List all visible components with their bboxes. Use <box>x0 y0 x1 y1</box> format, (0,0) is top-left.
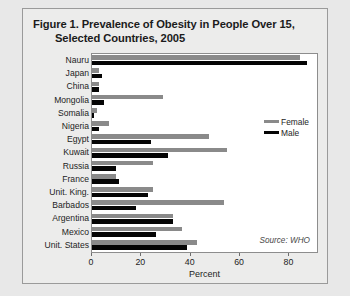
x-tick-label: 60 <box>234 257 244 267</box>
bar-female <box>92 214 173 219</box>
bar-female <box>92 187 153 192</box>
category-label: Russia <box>63 160 89 173</box>
x-tick <box>140 253 141 256</box>
bar-female <box>92 55 300 60</box>
bar-female <box>92 161 153 166</box>
x-tick-label: 40 <box>185 257 195 267</box>
bar-row: Argentina <box>92 212 317 225</box>
bar-male <box>92 87 99 92</box>
figure-title: Figure 1. Prevalence of Obesity in Peopl… <box>33 18 317 45</box>
legend-label: Female <box>281 117 309 127</box>
bar-row: Mongolia <box>92 94 317 107</box>
category-label: Unit. States <box>45 239 89 252</box>
category-label: Unit. King. <box>49 186 89 199</box>
x-axis-label: Percent <box>91 269 318 279</box>
category-label: Mexico <box>62 226 89 239</box>
figure-title-line-1: Figure 1. Prevalence of Obesity in Peopl… <box>33 18 295 30</box>
bar-male <box>92 245 187 250</box>
chart-legend: FemaleMale <box>264 116 309 138</box>
bar-male <box>92 206 136 211</box>
bar-female <box>92 108 97 113</box>
category-label: Argentina <box>52 212 89 225</box>
plot-area: NauruJapanChinaMongoliaSomaliaNigeriaEgy… <box>91 53 318 253</box>
bar-male <box>92 166 116 171</box>
bar-male <box>92 113 94 118</box>
bar-male <box>92 193 148 198</box>
figure-title-line-2: Selected Countries, 2005 <box>33 32 317 46</box>
bar-row: Nauru <box>92 54 317 67</box>
bar-female <box>92 148 227 153</box>
bar-female <box>92 134 209 139</box>
x-tick <box>91 253 92 256</box>
legend-item-male: Male <box>264 127 309 138</box>
bar-female <box>92 227 182 232</box>
legend-label: Male <box>281 128 299 138</box>
bar-row: Kuwait <box>92 146 317 159</box>
bar-female <box>92 82 99 87</box>
category-label: Nauru <box>66 54 89 67</box>
category-label: Kuwait <box>63 146 89 159</box>
bar-row: Japan <box>92 67 317 80</box>
legend-swatch-icon <box>264 120 279 123</box>
bar-male <box>92 127 99 132</box>
legend-swatch-icon <box>264 131 279 134</box>
category-label: Barbados <box>52 199 89 212</box>
category-label: Somalia <box>58 107 89 120</box>
x-axis: 020406080 Percent <box>91 253 318 287</box>
legend-item-female: Female <box>264 116 309 127</box>
source-note: Source: WHO <box>259 236 310 245</box>
bar-male <box>92 232 156 237</box>
x-tick <box>239 253 240 256</box>
bar-male <box>92 179 119 184</box>
bar-female <box>92 68 99 73</box>
bar-male <box>92 153 168 158</box>
bar-female <box>92 240 197 245</box>
category-label: Egypt <box>67 133 89 146</box>
x-tick-label: 20 <box>135 257 145 267</box>
bar-female <box>92 200 224 205</box>
bar-row: Barbados <box>92 199 317 212</box>
x-tick <box>190 253 191 256</box>
bar-row: China <box>92 80 317 93</box>
bar-row: Unit. King. <box>92 186 317 199</box>
category-label: France <box>62 173 89 186</box>
bar-female <box>92 174 116 179</box>
bar-row: Russia <box>92 160 317 173</box>
bar-rows: NauruJapanChinaMongoliaSomaliaNigeriaEgy… <box>92 54 317 252</box>
x-tick-label: 0 <box>89 257 94 267</box>
chart-container: NauruJapanChinaMongoliaSomaliaNigeriaEgy… <box>33 53 318 275</box>
figure-panel: Figure 1. Prevalence of Obesity in Peopl… <box>22 8 328 284</box>
bar-male <box>92 140 151 145</box>
bar-male <box>92 219 173 224</box>
category-label: China <box>67 80 89 93</box>
bar-male <box>92 100 104 105</box>
category-label: Mongolia <box>54 94 89 107</box>
x-tick <box>288 253 289 256</box>
bar-male <box>92 74 102 79</box>
category-label: Japan <box>66 67 89 80</box>
bar-row: France <box>92 173 317 186</box>
bar-female <box>92 95 163 100</box>
category-label: Nigeria <box>62 120 89 133</box>
bar-male <box>92 61 307 66</box>
bar-female <box>92 121 109 126</box>
x-tick-label: 80 <box>283 257 293 267</box>
